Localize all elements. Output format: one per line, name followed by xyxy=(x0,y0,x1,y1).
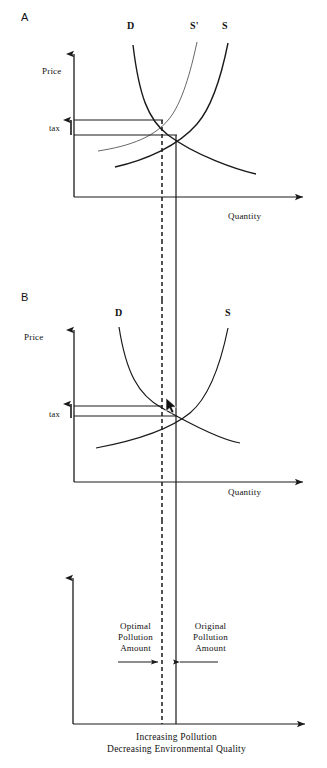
original-pollution-label: Original Pollution Amount xyxy=(183,621,238,654)
original-pollution-line-1: Original xyxy=(183,621,238,632)
connector-lines-b-c xyxy=(162,520,176,724)
panel-b-graph xyxy=(71,300,303,520)
panel-a-price-label: Price xyxy=(42,66,62,77)
panel-a-supply-shifted-label: S' xyxy=(190,20,199,31)
panel-a-supply-label: S xyxy=(222,20,228,31)
panel-b-demand-label: D xyxy=(115,307,122,318)
original-pollution-line-3: Amount xyxy=(183,643,238,654)
panel-b-tax-label: tax xyxy=(49,409,60,420)
panel-b-supply-label: S xyxy=(225,307,231,318)
panel-c-caption: Increasing Pollution Decreasing Environm… xyxy=(64,731,289,755)
panel-b-price-label: Price xyxy=(24,332,44,343)
panel-a-letter: A xyxy=(21,12,29,23)
panel-c-caption-line-2: Decreasing Environmental Quality xyxy=(64,743,289,755)
panel-a-supply-curve xyxy=(115,43,228,167)
panel-a-graph xyxy=(71,42,303,240)
panel-b-letter: B xyxy=(21,292,29,303)
optimal-pollution-line-1: Optimal xyxy=(108,621,163,632)
original-pollution-line-2: Pollution xyxy=(183,632,238,643)
panel-b-quantity-label: Quantity xyxy=(228,487,261,498)
panel-a-tax-label: tax xyxy=(49,123,60,134)
externality-tax-diagram xyxy=(0,0,327,768)
optimal-pollution-line-3: Amount xyxy=(108,643,163,654)
optimal-pollution-line-2: Pollution xyxy=(108,632,163,643)
optimal-pollution-label: Optimal Pollution Amount xyxy=(108,621,163,654)
connector-lines-a-b xyxy=(162,240,176,300)
panel-a-quantity-label: Quantity xyxy=(228,211,261,222)
panel-a-demand-label: D xyxy=(127,20,134,31)
panel-c-caption-line-1: Increasing Pollution xyxy=(64,731,289,743)
panel-b-demand-curve xyxy=(119,327,240,443)
